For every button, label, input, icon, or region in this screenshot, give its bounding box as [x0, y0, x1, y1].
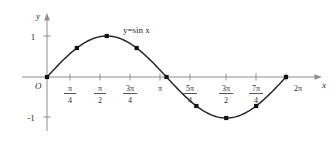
denominator: 2 — [98, 96, 102, 105]
y-axis-label: y — [35, 11, 40, 21]
y-tick-label-1: 1 — [31, 32, 36, 42]
figure-background — [0, 0, 335, 144]
equation-annotation: y=sin x — [123, 25, 150, 35]
numerator: π — [98, 84, 102, 93]
y-tick-label-minus1: -1 — [27, 113, 35, 123]
numerator: 3π — [126, 84, 134, 93]
x-tick-label-2pi: 2π — [294, 84, 302, 93]
x-axis-label: x — [321, 80, 326, 90]
denominator: 4 — [128, 96, 132, 105]
x-tick-label-pi: π — [158, 84, 162, 93]
numerator: 5π — [186, 84, 194, 93]
numerator: 3π — [222, 84, 230, 93]
denominator: 2 — [224, 96, 228, 105]
denominator: 4 — [188, 96, 192, 105]
origin-label: O — [35, 81, 42, 91]
numerator: 7π — [252, 84, 260, 93]
denominator: 4 — [254, 96, 258, 105]
denominator: 4 — [68, 96, 72, 105]
sine-curve-figure: y x O 1 -1 y=sin x π 4 π 2 3π 4 π 5π 4 3… — [0, 0, 335, 144]
numerator: π — [68, 84, 72, 93]
